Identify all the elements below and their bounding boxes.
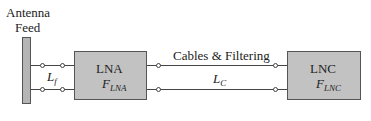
antenna-label-line1: Antenna: [6, 6, 50, 19]
terminal-node: [156, 63, 161, 68]
feed-wire-bottom: [31, 89, 74, 90]
feed-loss-label: Lf: [47, 70, 57, 88]
feed-loss-subscript: f: [54, 76, 57, 86]
terminal-node: [273, 63, 278, 68]
cable-loss-subscript: C: [220, 78, 226, 88]
antenna-feed-bar: [22, 37, 31, 104]
lnc-title: LNC: [310, 62, 336, 75]
cable-loss-label: LC: [213, 72, 226, 90]
antenna-label-line2: Feed: [15, 21, 40, 34]
lna-title: LNA: [96, 62, 123, 75]
feed-wire-top: [31, 65, 74, 66]
lnc-noise-subscript: LNC: [324, 83, 341, 93]
lnc-noise-figure: FLNC: [316, 77, 341, 95]
terminal-node: [156, 87, 161, 92]
lna-noise-figure: FLNA: [102, 77, 126, 95]
lna-noise-symbol: F: [102, 76, 110, 91]
terminal-node: [273, 87, 278, 92]
cables-title: Cables & Filtering: [173, 49, 270, 62]
lna-noise-subscript: LNA: [110, 83, 127, 93]
terminal-node: [40, 63, 45, 68]
lnc-noise-symbol: F: [316, 76, 324, 91]
terminal-node: [40, 87, 45, 92]
terminal-node: [60, 87, 65, 92]
terminal-node: [60, 63, 65, 68]
cable-wire-top: [147, 65, 287, 66]
